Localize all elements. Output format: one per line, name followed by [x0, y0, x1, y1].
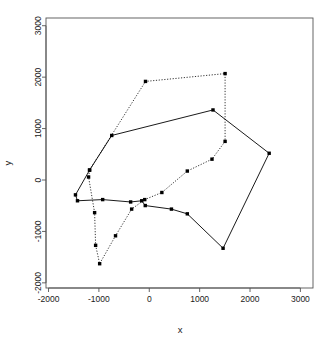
scatter-plot: -2000-10000100020003000 -2000-1000010002…	[0, 0, 331, 340]
y-axis-title: y	[2, 160, 13, 165]
y-tick-label: -2000	[33, 272, 43, 294]
x-tick-label: 3000	[291, 294, 310, 304]
data-point-marker	[186, 212, 189, 215]
data-point-marker	[87, 175, 90, 178]
data-point-marker	[76, 199, 79, 202]
data-point-marker	[211, 108, 214, 111]
data-point-marker	[223, 72, 226, 75]
data-point-marker	[98, 262, 101, 265]
data-point-marker	[144, 80, 147, 83]
x-tick-label: -2000	[38, 294, 60, 304]
data-point-marker	[210, 157, 213, 160]
x-tick-label: 1000	[190, 294, 209, 304]
data-point-marker	[110, 134, 113, 137]
data-point-marker	[143, 198, 146, 201]
data-point-marker	[140, 199, 143, 202]
data-point-marker	[144, 204, 147, 207]
data-point-marker	[186, 169, 189, 172]
data-point-marker	[130, 207, 133, 210]
y-tick-label: 0	[33, 177, 43, 182]
data-point-marker	[74, 193, 77, 196]
data-point-marker	[114, 234, 117, 237]
data-point-marker	[129, 200, 132, 203]
chart-root: -2000-10000100020003000 -2000-1000010002…	[0, 0, 331, 340]
data-point-marker	[267, 152, 270, 155]
y-tick-label: 1000	[33, 119, 43, 138]
x-tick-label: 2000	[241, 294, 260, 304]
data-point-marker	[93, 211, 96, 214]
x-tick-label: -1000	[88, 294, 110, 304]
x-tick-label: 0	[147, 294, 152, 304]
y-tick-label: 3000	[33, 16, 43, 35]
data-point-marker	[101, 198, 104, 201]
y-tick-label: -1000	[33, 220, 43, 242]
data-point-marker	[88, 168, 91, 171]
x-axis-title: x	[178, 324, 183, 335]
data-point-marker	[94, 244, 97, 247]
data-point-marker	[170, 207, 173, 210]
y-tick-label: 2000	[33, 67, 43, 86]
data-point-marker	[221, 247, 224, 250]
chart-background	[0, 0, 331, 340]
data-point-marker	[223, 140, 226, 143]
data-point-marker	[160, 191, 163, 194]
